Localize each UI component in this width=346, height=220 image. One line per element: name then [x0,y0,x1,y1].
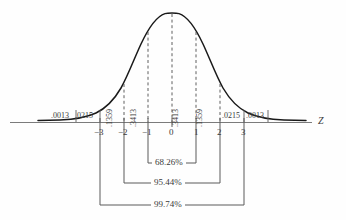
tick-label-minus3: −3 [94,128,104,137]
area-label-minus3-to-minus2: .0215 [75,112,93,120]
tick-label-minus2: −2 [118,128,128,137]
bracket-label-68: 68.26% [152,158,186,167]
area-label-minus2-to-minus1: .1359 [106,109,114,127]
dashed-verticals [124,14,220,122]
area-label-plus2-to-plus3: .0215 [222,112,240,120]
area-label-minus1-to-zero: .3413 [130,109,138,127]
tick-label-minus1: −1 [142,128,152,137]
bracket-label-99: 99.74% [151,200,185,209]
area-label-zero-to-plus1: .3413 [172,109,180,127]
normal-distribution-figure: Z −3 −2 −1 0 1 2 3 .0013 .0215 .0215 .00… [0,0,346,220]
axis-label-z: Z [318,116,324,126]
tick-label-plus2: 2 [217,128,222,137]
area-label-minus4-to-minus3: .0013 [51,112,69,120]
tick-label-plus3: 3 [241,128,246,137]
area-label-plus3-to-plus4: .0013 [246,112,264,120]
tick-label-zero: 0 [169,128,174,137]
bracket-label-95: 95.44% [151,178,185,187]
area-label-plus1-to-plus2: .1359 [196,109,204,127]
tick-label-plus1: 1 [194,128,199,137]
